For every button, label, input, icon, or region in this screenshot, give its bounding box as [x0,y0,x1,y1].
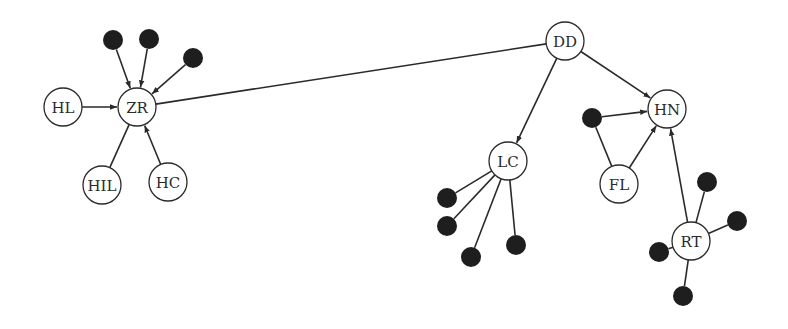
unlabeled-node [183,48,203,68]
edge-h1-hn [602,111,647,116]
node-label: LC [497,153,518,171]
unlabeled-node [697,172,717,192]
unlabeled-node [727,211,747,231]
edge-rt-r4 [684,260,688,286]
labeled-nodes-layer: ZRHLHILHCDDHNLCFLRT [44,22,710,260]
node-label: RT [680,233,701,251]
node-dd: DD [546,22,584,60]
edge-dd-lc [517,58,557,143]
node-label: HIL [88,177,117,195]
network-diagram: ZRHLHILHCDDHNLCFLRT [0,0,788,329]
unlabeled-node [461,247,481,267]
edge-z1-zr [116,49,130,88]
node-label: HL [51,99,74,117]
unlabeled-node [437,188,457,208]
node-hn: HN [648,90,686,128]
edge-rt-r1 [696,192,704,223]
node-label: FL [609,176,629,194]
node-hil: HIL [83,166,121,204]
node-fl: FL [600,165,638,203]
edge-zr-dd [156,44,546,104]
unlabeled-nodes-layer [103,29,747,306]
node-label: HN [654,101,680,119]
node-hc: HC [149,163,187,201]
edge-lc-l4 [510,180,515,235]
unlabeled-node [582,108,602,128]
unlabeled-node [506,235,526,255]
edge-rt-r3 [668,247,673,249]
node-rt: RT [672,222,710,260]
node-label: DD [553,33,577,51]
unlabeled-node [139,29,159,49]
edge-rt-r2 [708,225,727,233]
unlabeled-node [649,242,669,262]
unlabeled-node [673,286,693,306]
edge-rt-hn [671,129,688,223]
node-zr: ZR [118,88,156,126]
edge-hc-zr [145,125,161,164]
unlabeled-node [437,216,457,236]
node-hl: HL [44,88,82,126]
edges-layer [82,44,728,286]
node-label: ZR [126,99,148,117]
edge-lc-l3 [475,179,502,248]
edge-fl-hn [629,126,656,168]
edge-h1-fl [596,127,612,166]
node-label: HC [156,174,181,192]
edge-hil-zr [110,124,129,167]
unlabeled-node [103,30,123,50]
edge-z3-zr [152,65,185,94]
edge-lc-l1 [456,171,492,193]
edge-dd-hn [581,52,651,98]
edge-z2-zr [140,49,147,87]
node-lc: LC [489,142,527,180]
